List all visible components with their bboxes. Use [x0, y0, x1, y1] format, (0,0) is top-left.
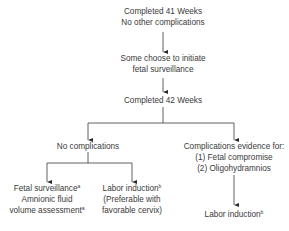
node-text: No complications	[57, 141, 119, 152]
node-text: Completed 41 Weeks	[121, 6, 204, 17]
node-completed-41-weeks: Completed 41 Weeks No other complication…	[121, 6, 204, 28]
node-text: No other complications	[121, 17, 204, 28]
node-initiate-surveillance: Some choose to initiate fetal surveillan…	[120, 53, 205, 75]
text: volume assessment	[9, 206, 81, 215]
node-text: fetal surveillance	[120, 64, 205, 75]
footnote-marker: a	[77, 183, 80, 189]
text: Fetal surveillance	[14, 184, 78, 193]
node-text: Amnionic fluid	[9, 194, 84, 205]
footnote-marker: b	[261, 209, 264, 215]
text: Labor induction	[103, 184, 159, 193]
node-text: Labor inductionb	[102, 183, 162, 194]
node-labor-induction-right: Labor inductionb	[205, 209, 264, 220]
node-complications-evidence: Complications evidence for: (1) Fetal co…	[184, 141, 285, 174]
node-text: Complications evidence for:	[184, 141, 285, 152]
node-text: (Preferable with	[102, 194, 162, 205]
node-text: Fetal surveillancea	[9, 183, 84, 194]
node-text: Some choose to initiate	[120, 53, 205, 64]
node-text: favorable cervix)	[102, 205, 162, 216]
node-fetal-surveillance: Fetal surveillancea Amnionic fluid volum…	[9, 183, 84, 216]
node-no-complications: No complications	[57, 141, 119, 152]
node-labor-induction-left: Labor inductionb (Preferable with favora…	[102, 183, 162, 216]
text: Labor induction	[205, 210, 261, 219]
node-text: (2) Oligohydramnios	[184, 163, 285, 174]
node-completed-42-weeks: Completed 42 Weeks	[124, 95, 202, 106]
node-text: Labor inductionb	[205, 209, 264, 220]
footnote-marker: a	[82, 205, 85, 211]
footnote-marker: b	[159, 183, 162, 189]
node-text: Completed 42 Weeks	[124, 95, 202, 106]
node-text: (1) Fetal compromise	[184, 152, 285, 163]
node-text: volume assessmenta	[9, 205, 84, 216]
